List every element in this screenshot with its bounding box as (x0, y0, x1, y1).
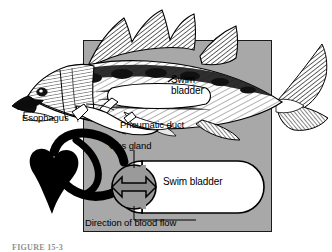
figure-container: Swim bladder Esophagus Pneumatic duct Ga… (0, 0, 332, 252)
label-pneumatic-duct: Pneumatic duct (120, 120, 184, 131)
heart-shape (30, 149, 79, 214)
label-esophagus: Esophagus (22, 113, 69, 124)
caudal-fin (276, 44, 328, 130)
gray-background-panel (83, 40, 272, 232)
figure-caption: FIGURE 15-3 (12, 243, 63, 252)
label-swim-bladder-fish: Swim bladder (171, 74, 204, 96)
label-swim-bladder-schematic: Swim bladder (163, 177, 222, 188)
label-direction-of-blood-flow: Direction of blood flow (85, 218, 176, 229)
label-gas-gland: Gas gland (109, 141, 151, 152)
